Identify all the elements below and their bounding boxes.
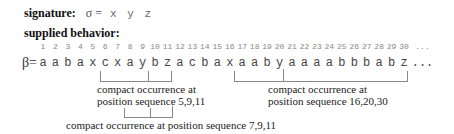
position-number: 29 bbox=[387, 42, 397, 51]
sequence-symbol: x bbox=[226, 56, 233, 70]
sequence-symbol: a bbox=[326, 56, 333, 70]
position-number: 3 bbox=[65, 42, 70, 51]
position-number: 17 bbox=[237, 42, 247, 51]
position-number: 23 bbox=[312, 42, 322, 51]
position-number: 4 bbox=[78, 42, 83, 51]
sequence-symbol: a bbox=[313, 56, 320, 70]
sequence-symbol: b bbox=[388, 56, 395, 70]
position-number: 25 bbox=[337, 42, 347, 51]
occurrence-label-7-9-11: compact occurrence at position sequence … bbox=[66, 119, 276, 131]
position-number: 10 bbox=[150, 42, 160, 51]
position-number: 20 bbox=[275, 42, 285, 51]
position-number: 14 bbox=[200, 42, 210, 51]
position-number: 11 bbox=[163, 42, 173, 51]
sequence-symbol: b bbox=[263, 56, 270, 70]
position-number: 16 bbox=[225, 42, 235, 51]
sequence-symbol: y bbox=[276, 56, 283, 70]
sequence-symbol: c bbox=[189, 56, 196, 70]
sequence-symbol: c bbox=[102, 56, 109, 70]
occurrence-label-line2: position sequence 16,20,30 bbox=[268, 95, 388, 107]
signature-label: signature: bbox=[24, 6, 76, 20]
beta-symbol: β= bbox=[22, 55, 37, 71]
sequence-symbol: ... bbox=[412, 56, 434, 70]
sequence-symbol: a bbox=[39, 56, 46, 70]
sequence-symbol: a bbox=[239, 56, 246, 70]
sequence-symbol: a bbox=[301, 56, 308, 70]
occurrence-label-line1: compact occurrence at bbox=[97, 83, 205, 95]
position-number: 8 bbox=[128, 42, 133, 51]
sequence-symbol: a bbox=[376, 56, 383, 70]
signature-alphabet: x y z bbox=[110, 8, 153, 20]
position-number: 13 bbox=[188, 42, 198, 51]
sequence-symbol: z bbox=[400, 56, 407, 70]
position-number: 26 bbox=[349, 42, 359, 51]
position-number: 12 bbox=[175, 42, 185, 51]
position-number: 18 bbox=[250, 42, 260, 51]
sequence-symbol: b bbox=[351, 56, 358, 70]
sequence-symbol: a bbox=[176, 56, 183, 70]
position-number: 2 bbox=[53, 42, 58, 51]
position-number: 27 bbox=[362, 42, 372, 51]
position-number: ... bbox=[415, 42, 429, 51]
sequence-symbol: a bbox=[127, 56, 134, 70]
sequence-symbol: x bbox=[89, 56, 96, 70]
sequence-symbol: a bbox=[52, 56, 59, 70]
position-number: 30 bbox=[399, 42, 409, 51]
sequence-symbol: b bbox=[151, 56, 158, 70]
sequence-symbol: y bbox=[139, 56, 146, 70]
sigma-formula: σ = bbox=[86, 6, 102, 20]
sequence-symbol: a bbox=[214, 56, 221, 70]
position-number: 15 bbox=[212, 42, 222, 51]
position-number: 9 bbox=[140, 42, 145, 51]
sequence-symbol: z bbox=[164, 56, 171, 70]
position-number: 7 bbox=[115, 42, 120, 51]
position-number: 19 bbox=[262, 42, 272, 51]
sequence-symbol: b bbox=[64, 56, 71, 70]
position-number: 1 bbox=[41, 42, 46, 51]
position-number: 24 bbox=[325, 42, 335, 51]
bracket-line bbox=[100, 81, 172, 82]
sequence-symbol: b bbox=[363, 56, 370, 70]
position-number: 21 bbox=[287, 42, 297, 51]
sequence-symbol: a bbox=[77, 56, 84, 70]
sequence-symbol: a bbox=[288, 56, 295, 70]
position-number: 6 bbox=[103, 42, 108, 51]
supplied-behavior-label: supplied behavior: bbox=[24, 26, 120, 41]
sequence-symbol: b bbox=[201, 56, 208, 70]
sequence-symbol: x bbox=[114, 56, 121, 70]
sequence-symbol: a bbox=[251, 56, 258, 70]
occurrence-label-line2: position sequence 5,9,11 bbox=[97, 95, 205, 107]
position-number: 22 bbox=[300, 42, 310, 51]
occurrence-label-5-9-11: compact occurrence at position sequence … bbox=[97, 83, 205, 107]
occurrence-label-line1: compact occurrence at bbox=[268, 83, 388, 95]
sequence-symbol: b bbox=[338, 56, 345, 70]
occurrence-label-16-20-30: compact occurrence at position sequence … bbox=[268, 83, 388, 107]
signature-line: signature: σ = x y z bbox=[24, 3, 153, 21]
position-number: 28 bbox=[374, 42, 384, 51]
bracket-line bbox=[234, 81, 408, 82]
bracket-line bbox=[124, 117, 173, 118]
position-number: 5 bbox=[90, 42, 95, 51]
